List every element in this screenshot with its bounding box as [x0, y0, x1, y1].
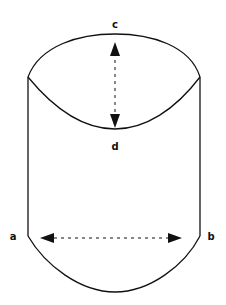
- label-d: d: [111, 141, 118, 152]
- arrowhead-up-icon: [110, 42, 120, 56]
- cylinder-diagram: c d a b: [0, 0, 226, 305]
- label-c: c: [112, 19, 118, 30]
- arrowhead-down-icon: [110, 114, 120, 128]
- label-a: a: [10, 231, 17, 242]
- label-b: b: [207, 231, 214, 242]
- bottom-curve: [28, 236, 200, 292]
- arrowhead-left-icon: [40, 233, 54, 243]
- arrowhead-right-icon: [168, 233, 182, 243]
